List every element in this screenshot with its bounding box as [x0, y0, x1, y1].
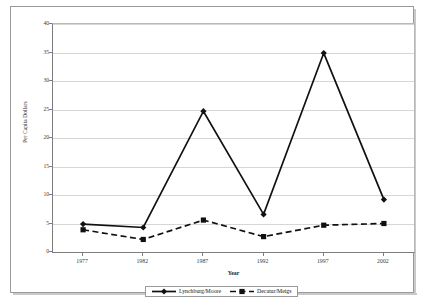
- x-axis-tick-label: 1987: [182, 257, 222, 265]
- series-1: [80, 50, 387, 231]
- y-axis-tick-mark: [49, 251, 52, 252]
- x-axis-tick-label: 1982: [122, 257, 162, 265]
- data-point-marker-square: [321, 223, 326, 228]
- data-point-marker-square: [261, 234, 266, 239]
- y-axis-tick-mark: [49, 223, 52, 224]
- y-axis-tick-label: 40: [27, 20, 49, 26]
- x-axis-tick-label: 1997: [303, 257, 343, 265]
- x-axis-tick-mark: [383, 253, 384, 256]
- data-point-marker-diamond: [80, 221, 86, 227]
- y-axis-tick-mark: [49, 109, 52, 110]
- y-axis-tick-mark: [49, 166, 52, 167]
- series-line: [83, 53, 384, 227]
- x-axis-tick-label: 1977: [62, 257, 102, 265]
- chart-figure: Per Capita Dollars 0510152025303540 1977…: [0, 0, 426, 306]
- y-axis-tick-label: 5: [27, 220, 49, 226]
- x-axis-tick-labels: 197719821987199219972002: [52, 257, 415, 267]
- y-axis-tick-label: 0: [27, 248, 49, 254]
- y-axis-tick-mark: [49, 23, 52, 24]
- chart-series-canvas: [53, 24, 414, 252]
- x-axis-tick-mark: [82, 253, 83, 256]
- y-axis-tick-label: 30: [27, 77, 49, 83]
- y-axis-tick-label: 20: [27, 134, 49, 140]
- data-point-marker-diamond: [321, 50, 327, 56]
- x-axis-title: Year: [52, 270, 415, 276]
- y-axis-tick-mark: [49, 137, 52, 138]
- data-point-marker-diamond: [381, 196, 387, 202]
- data-point-marker-square: [239, 289, 244, 294]
- legend-swatch: [229, 287, 255, 296]
- data-point-marker-square: [381, 221, 386, 226]
- legend-label: Decatur/Meigs: [257, 288, 291, 295]
- y-axis-tick-label: 10: [27, 191, 49, 197]
- y-axis-tick-label: 25: [27, 106, 49, 112]
- y-axis-tick-mark: [49, 194, 52, 195]
- y-axis-tick-label: 15: [27, 163, 49, 169]
- data-point-marker-diamond: [161, 288, 167, 294]
- legend-swatch: [151, 287, 177, 296]
- x-axis-tick-mark: [263, 253, 264, 256]
- data-point-marker-diamond: [140, 224, 146, 230]
- y-axis-tick-mark: [49, 52, 52, 53]
- legend-item: Lynchburg/Moore: [151, 287, 221, 296]
- x-axis-tick-label: 1992: [243, 257, 283, 265]
- y-axis-tick-labels: 0510152025303540: [25, 23, 49, 253]
- plot-area: [52, 23, 415, 253]
- chart-outer-frame: Per Capita Dollars 0510152025303540 1977…: [10, 6, 414, 293]
- data-point-marker-square: [201, 217, 206, 222]
- data-point-marker-square: [141, 237, 146, 242]
- y-axis-tick-label: 35: [27, 49, 49, 55]
- legend-item: Decatur/Meigs: [229, 287, 291, 296]
- data-point-marker-square: [80, 227, 85, 232]
- x-axis-tick-mark: [202, 253, 203, 256]
- chart-legend: Lynchburg/MooreDecatur/Meigs: [145, 286, 298, 297]
- series-2: [80, 217, 386, 242]
- x-axis-tick-mark: [323, 253, 324, 256]
- x-axis-tick-label: 2002: [363, 257, 403, 265]
- x-axis-tick-mark: [142, 253, 143, 256]
- legend-label: Lynchburg/Moore: [179, 288, 221, 295]
- series-line: [83, 220, 384, 239]
- y-axis-tick-mark: [49, 80, 52, 81]
